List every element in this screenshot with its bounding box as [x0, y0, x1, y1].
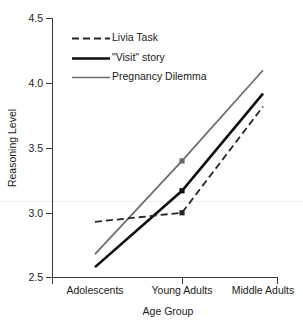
x-tick-label-middle-adults: Middle Adults [232, 284, 294, 296]
y-axis-tick-labels: 4.5 4.0 3.5 3.0 2.5 [28, 12, 43, 283]
y-tick-label-2.5: 2.5 [28, 271, 43, 283]
y-tick-label-3.5: 3.5 [28, 142, 43, 154]
reasoning-level-line-chart: 4.5 4.0 3.5 3.0 2.5 Reasoning Level Adol… [0, 0, 303, 324]
series-line-pregnancy-dilemma [95, 70, 263, 254]
data-point-marker [179, 158, 184, 163]
y-axis-ticks [46, 19, 53, 278]
y-tick-label-4.0: 4.0 [28, 77, 43, 89]
x-axis-title: Age Group [143, 305, 194, 317]
series-group [95, 70, 263, 267]
x-tick-label-young-adults: Young Adults [152, 284, 213, 296]
series-line-visit-story [95, 94, 263, 268]
legend-label-pregnancy-dilemma: Pregnancy Dilemma [112, 70, 207, 82]
y-tick-label-4.5: 4.5 [28, 12, 43, 24]
chart-plot-area: 4.5 4.0 3.5 3.0 2.5 Reasoning Level Adol… [0, 0, 303, 324]
legend-label-visit-story: "Visit" story [112, 51, 166, 63]
legend-label-livia-task: Livia Task [112, 31, 159, 43]
y-axis-title: Reasoning Level [6, 109, 18, 187]
x-axis-tick-labels: Adolescents Young Adults Middle Adults [66, 284, 294, 296]
chart-legend: Livia Task "Visit" story Pregnancy Dilem… [72, 31, 207, 82]
data-point-marker [179, 188, 184, 193]
y-tick-label-3.0: 3.0 [28, 207, 43, 219]
data-point-marker [179, 210, 184, 215]
x-tick-label-adolescents: Adolescents [66, 284, 123, 296]
